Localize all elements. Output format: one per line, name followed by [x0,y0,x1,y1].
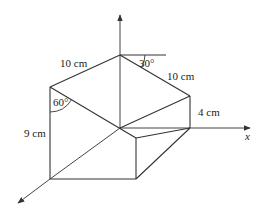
label-angle-60: 60° [53,96,68,108]
label-top-left-edge: 10 cm [60,57,88,69]
edge-front-top [136,128,190,138]
label-top-right-edge: 10 cm [167,70,195,82]
prism-diagram: 10 cm 10 cm 4 cm 9 cm 30° 60° x [0,0,260,218]
z-axis [18,179,50,203]
edge-right-diagonal [120,96,190,128]
edge-bottom-right [136,128,190,179]
diagram-canvas: 10 cm 10 cm 4 cm 9 cm 30° 60° x [0,0,260,218]
label-x-axis: x [244,130,250,142]
z-axis-inner [50,128,120,179]
edge-left-diagonal [50,87,136,138]
label-angle-30: 30° [139,57,154,69]
label-left-height: 9 cm [24,127,46,139]
label-right-height: 4 cm [198,106,220,118]
